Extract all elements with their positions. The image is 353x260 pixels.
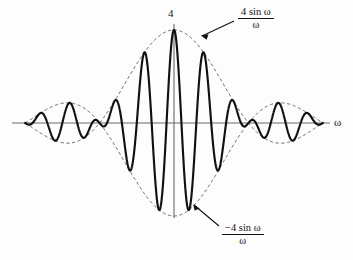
sinc-modulated-waveform-figure — [0, 0, 353, 260]
upper-callout-arrowhead — [201, 34, 209, 40]
omega-axis-label: ω — [334, 117, 341, 128]
lower-envelope-numerator: −4 sin ω — [222, 222, 264, 235]
upper-envelope-denominator: ω — [238, 19, 274, 31]
peak-value-label: 4 — [168, 8, 174, 19]
upper-envelope-annotation: 4 sin ω ω — [238, 6, 274, 31]
lower-envelope-fraction: −4 sin ω ω — [222, 222, 264, 247]
lower-envelope-denominator: ω — [222, 235, 264, 247]
upper-envelope-numerator: 4 sin ω — [238, 6, 274, 19]
upper-envelope-fraction: 4 sin ω ω — [238, 6, 274, 31]
lower-envelope-annotation: −4 sin ω ω — [222, 222, 264, 247]
upper-callout-leader — [202, 21, 234, 36]
